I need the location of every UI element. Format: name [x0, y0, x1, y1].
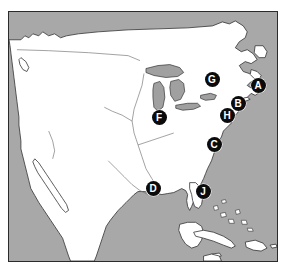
marker-c[interactable]: C [207, 137, 222, 152]
marker-j[interactable]: J [196, 184, 211, 199]
lake-michigan [153, 81, 165, 111]
marker-f[interactable]: F [152, 110, 167, 125]
map-frame [8, 11, 278, 262]
marker-g[interactable]: G [205, 72, 220, 87]
marker-b[interactable]: B [231, 96, 246, 111]
marker-d[interactable]: D [146, 181, 161, 196]
north-america-map-svg [9, 12, 277, 261]
marker-h[interactable]: H [220, 108, 235, 123]
marker-a[interactable]: A [251, 78, 266, 93]
map-figure: A G B H F C D J [0, 0, 286, 270]
